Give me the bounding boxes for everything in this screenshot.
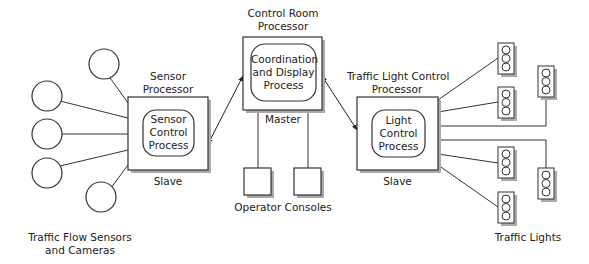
- title-line: Processor: [128, 83, 208, 96]
- traffic-lights-label: Traffic Lights: [488, 231, 568, 244]
- process-line: Process: [251, 79, 316, 92]
- process-line: Control: [372, 127, 425, 140]
- process-line: Sensor: [143, 113, 194, 126]
- sensor-processor-title: Sensor Processor: [128, 70, 208, 96]
- operator-consoles: [244, 168, 324, 198]
- process-line: Process: [143, 139, 194, 152]
- traffic-lights: [498, 43, 557, 226]
- title-line: Processor: [233, 20, 333, 33]
- control-room-title: Control Room Processor: [233, 7, 333, 33]
- title-line: Sensor: [128, 70, 208, 83]
- sensor-master-link: [208, 76, 243, 144]
- coordination-process: Coordination and Display Process: [251, 53, 316, 92]
- process-line: Coordination: [251, 53, 316, 66]
- light-control-process: Light Control Process: [372, 114, 425, 153]
- process-line: Control: [143, 126, 194, 139]
- sensor-circles: [32, 49, 119, 212]
- diagram-canvas: [0, 0, 589, 264]
- traffic-light-processor-title: Traffic Light Control Processor: [347, 70, 447, 96]
- master-label: Master: [258, 113, 308, 126]
- label-line: Traffic Flow Sensors: [20, 231, 140, 244]
- process-line: Light: [372, 114, 425, 127]
- process-line: Process: [372, 140, 425, 153]
- operator-consoles-label: Operator Consoles: [233, 201, 333, 214]
- process-line: and Display: [251, 66, 316, 79]
- sensors-group-label: Traffic Flow Sensors and Cameras: [20, 231, 140, 257]
- sensor-link: [108, 75, 128, 103]
- sensor-slave-label: Slave: [128, 175, 208, 188]
- label-line: and Cameras: [20, 244, 140, 257]
- title-line: Traffic Light Control: [347, 70, 447, 83]
- sensor-control-process: Sensor Control Process: [143, 113, 194, 152]
- title-line: Processor: [347, 83, 447, 96]
- title-line: Control Room: [233, 7, 333, 20]
- light-slave-label: Slave: [357, 175, 438, 188]
